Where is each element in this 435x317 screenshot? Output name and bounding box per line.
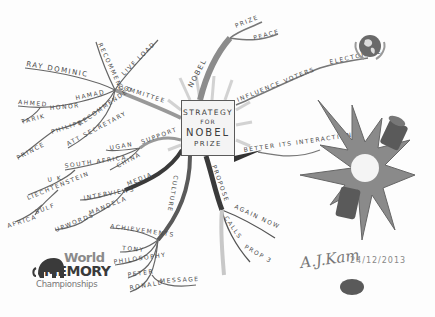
label-interviews: INTERVIEWS [83, 185, 135, 201]
label-ray-dominic: RAY DOMINIC [26, 60, 89, 79]
label-peter: PETER [127, 267, 154, 278]
label-peace: PEACE [252, 27, 280, 41]
label-live-load: LIVE LOAD [120, 40, 157, 77]
center-line-1: STRATEGY [183, 107, 233, 118]
label-ronald: RONALD [129, 278, 164, 291]
label-again-now: AGAIN NOW [234, 203, 282, 230]
center-line-2: FOR [200, 118, 215, 126]
label-upwords: UPWORDS [54, 211, 95, 233]
label-philosophy: PHILOSOPHY [113, 251, 167, 265]
signature-date: 24/12/2013 [350, 256, 406, 265]
label-sulf: SULF [34, 201, 56, 215]
ink-blot-icon [340, 279, 364, 295]
label-honor: HONOR [49, 101, 80, 111]
globe-emblem-icon [355, 35, 384, 59]
logo-memory: MEMORY [44, 263, 110, 279]
world-memory-championships-logo: World MEMORY Championships [34, 250, 104, 290]
label-recommend: RECOMMEND [97, 41, 126, 93]
branch-propose: PROPOSE AGAIN NOW CALLS PROP 3 [206, 156, 281, 275]
label-support: SUPPORT [140, 125, 178, 145]
logo-championships: Championships [36, 279, 97, 289]
mind-map-canvas: NOBEL PRIZE PEACE INFLUENCE VOTERS ELECT… [0, 0, 435, 317]
label-prop: PROP 3 [244, 243, 274, 264]
label-prize: PRIZE [234, 13, 260, 29]
label-prince: PRINCE [15, 140, 46, 161]
label-voters: INFLUENCE VOTERS [236, 65, 316, 103]
center-line-4: PRIZE [194, 139, 222, 149]
label-achievements: ACHIEVEMENTS [110, 222, 175, 238]
center-line-3: NOBEL [186, 126, 230, 139]
central-topic: STRATEGY FOR NOBEL PRIZE [181, 100, 235, 156]
branch-committee: COMMITTEE RAY DOMINIC HAMAD AHMED HONOR … [15, 40, 181, 161]
label-africa: AFRICA [6, 213, 37, 229]
label-message: MESSAGE [160, 275, 200, 284]
label-tarik: TARIK [19, 112, 46, 125]
